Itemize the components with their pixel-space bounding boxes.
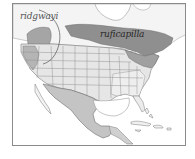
southeast-migration (111, 70, 145, 96)
label-ridgwayi: ridgwayi (20, 12, 58, 21)
caribbean-islands (131, 108, 171, 132)
gulf-of-mexico (93, 98, 129, 116)
north-america-map (13, 4, 186, 146)
range-map-frame: ridgwayi ruficapilla (12, 3, 186, 146)
central-america (109, 126, 133, 144)
florida (133, 96, 145, 112)
label-ruficapilla: ruficapilla (100, 30, 144, 39)
